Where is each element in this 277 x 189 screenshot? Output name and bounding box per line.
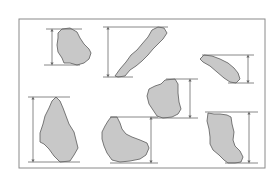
particle-outline [57,28,91,65]
particle-2 [103,27,168,77]
particle-outline [207,113,243,163]
particle-outline [102,117,149,162]
particle-3 [200,55,254,83]
particle-measurement-diagram [0,0,277,189]
particle-outline [115,27,167,77]
particle-outline [147,79,181,118]
particle-5 [147,79,198,118]
particle-outline [40,97,78,162]
particles-group [28,27,258,163]
particle-6 [102,117,158,163]
particle-1 [44,28,91,65]
particle-7 [205,112,258,163]
particle-4 [28,97,80,162]
diagram-svg [0,0,277,189]
particle-outline [200,55,240,83]
